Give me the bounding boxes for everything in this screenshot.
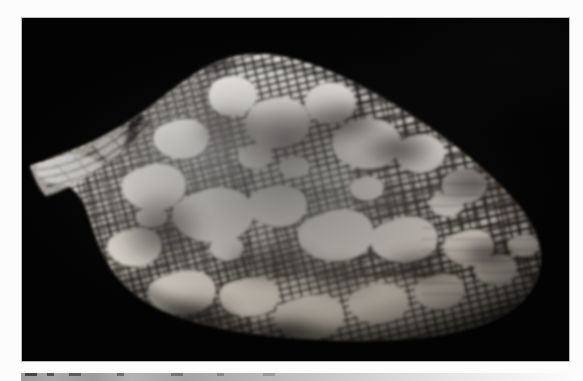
strip-tick (171, 373, 183, 376)
cone-shell-photograph (21, 17, 570, 362)
photo-black-background (22, 18, 569, 361)
strip-ticks (21, 373, 570, 381)
strip-tick (117, 373, 124, 376)
strip-tick (47, 373, 54, 376)
strip-tick (69, 373, 81, 376)
strip-tick (217, 373, 224, 376)
cone-shell-figure (22, 18, 569, 361)
strip-tick (263, 373, 275, 376)
cropped-figure-below (21, 373, 570, 381)
strip-tick (25, 373, 37, 376)
page-canvas (0, 0, 583, 381)
